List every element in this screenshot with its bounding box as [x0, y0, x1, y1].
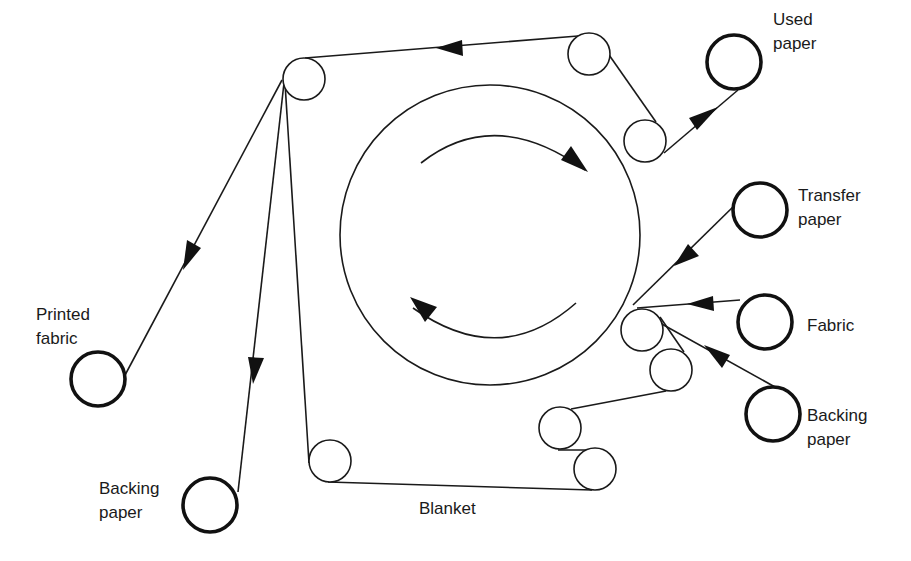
- printed-fabric-line: [124, 80, 282, 377]
- roller-nip: [621, 309, 663, 351]
- roller-bottom-b: [574, 448, 616, 490]
- roller-top: [568, 33, 610, 75]
- rotation-arrow-top-icon: [561, 146, 588, 172]
- belt-lower-diagonal: [571, 391, 666, 409]
- roller-blanket: [309, 440, 351, 482]
- label-backing-paper-right: Backing paper: [807, 404, 867, 452]
- used-paper-roll: [707, 35, 761, 89]
- rotation-arc-top: [421, 136, 585, 170]
- roller-right-lower: [650, 349, 692, 391]
- blanket-bottom-run: [328, 482, 592, 490]
- backing-paper-left-line: [238, 83, 284, 492]
- fabric-roll: [738, 295, 792, 349]
- roller-right-upper: [624, 120, 666, 162]
- arrow-fabric-icon: [687, 296, 714, 311]
- label-blanket: Blanket: [419, 497, 476, 521]
- label-printed-fabric: Printed fabric: [36, 303, 90, 351]
- arrow-used-paper-icon: [689, 107, 718, 130]
- transfer-paper-roll: [733, 183, 787, 237]
- arrow-printed-fabric-icon: [183, 240, 201, 270]
- arrow-transfer-paper-icon: [674, 244, 699, 266]
- backing-paper-right-roll: [746, 387, 800, 441]
- backing-paper-left-roll: [183, 478, 237, 532]
- heated-drum: [340, 85, 640, 385]
- arrow-backing-paper-right-icon: [704, 345, 730, 368]
- arrow-blanket-top-icon: [436, 40, 463, 56]
- label-backing-paper-left: Backing paper: [99, 477, 159, 525]
- roller-top-left: [283, 58, 325, 100]
- blanket-return-run: [285, 83, 309, 463]
- paper-run-to-roller: [607, 52, 656, 122]
- rotation-arc-bottom: [413, 303, 576, 338]
- printed-fabric-roll: [71, 352, 125, 406]
- label-used-paper: Used paper: [773, 8, 816, 56]
- label-transfer-paper: Transfer paper: [798, 184, 861, 232]
- label-fabric: Fabric: [807, 314, 854, 338]
- roller-bottom-a: [539, 407, 581, 449]
